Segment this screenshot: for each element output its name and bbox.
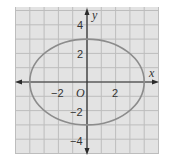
x-tick-label-2: 2 <box>112 87 118 99</box>
y-tick-label-2: 2 <box>77 48 83 60</box>
y-axis-label: y <box>91 8 98 22</box>
origin-label: O <box>76 86 85 100</box>
y-tick-label-neg4: −4 <box>70 135 83 147</box>
x-axis-label: x <box>148 66 155 80</box>
y-tick-label-neg2: −2 <box>70 106 83 118</box>
x-tick-label-neg2: −2 <box>51 87 64 99</box>
y-tick-label-4: 4 <box>77 19 83 31</box>
coordinate-plane: x y O −2 2 4 2 −2 −4 <box>0 0 171 164</box>
